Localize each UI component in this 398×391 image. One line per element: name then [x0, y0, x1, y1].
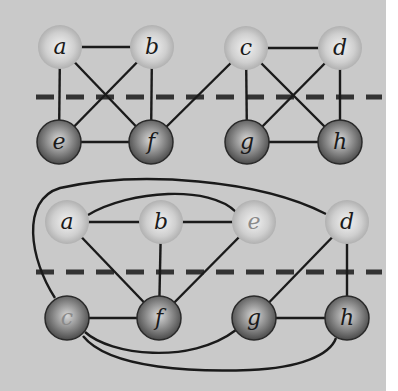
- node-b: b: [139, 200, 183, 244]
- node-label: d: [333, 35, 347, 60]
- node-d: d: [318, 26, 362, 70]
- node-h: h: [318, 120, 362, 164]
- node-label: c: [61, 305, 73, 330]
- node-label: d: [340, 209, 354, 234]
- node-label: e: [52, 129, 65, 154]
- node-a: a: [45, 200, 89, 244]
- node-label: h: [333, 129, 347, 154]
- node-e: e: [37, 120, 81, 164]
- node-f: f: [129, 120, 173, 164]
- graph-drawing: abcdefghabedcfgh: [0, 0, 398, 391]
- diagram-canvas: abcdefghabedcfgh: [0, 0, 398, 391]
- node-label: h: [340, 305, 354, 330]
- node-label: b: [154, 209, 168, 234]
- node-label: g: [240, 129, 254, 154]
- node-label: g: [247, 305, 261, 330]
- node-d: d: [325, 200, 369, 244]
- curved-edge-c-h: [83, 336, 336, 371]
- node-a: a: [38, 25, 82, 69]
- node-f: f: [137, 296, 181, 340]
- node-label: e: [247, 209, 260, 234]
- node-h: h: [325, 296, 369, 340]
- node-c: c: [45, 296, 89, 340]
- node-b: b: [130, 25, 174, 69]
- node-label: a: [60, 209, 73, 234]
- node-label: b: [145, 34, 159, 59]
- node-c: c: [224, 26, 268, 70]
- node-g: g: [232, 296, 276, 340]
- node-g: g: [225, 120, 269, 164]
- node-e: e: [232, 200, 276, 244]
- node-label: c: [240, 35, 252, 60]
- node-label: a: [53, 34, 66, 59]
